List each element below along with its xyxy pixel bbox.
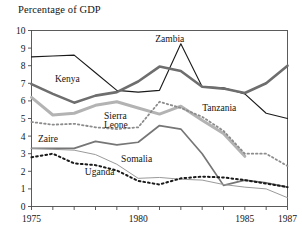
y-axis-tick-label: 4 [21, 132, 26, 142]
y-axis-tick-label: 0 [21, 202, 26, 212]
x-axis-tick-label: 1975 [22, 214, 41, 224]
line-chart-plot: 0123456789101975198019851987KenyaZambiaT… [0, 0, 302, 239]
y-axis-tick-label: 1 [21, 184, 26, 194]
x-axis-tick-label: 1980 [129, 214, 148, 224]
y-axis-tick-label: 3 [21, 149, 26, 159]
series-annotation-somalia: Somalia [121, 154, 153, 164]
series-line-uganda [32, 154, 288, 187]
y-axis-tick-label: 6 [21, 96, 26, 106]
y-axis-tick-label: 9 [21, 44, 26, 54]
series-annotation-zaire: Zaire [38, 134, 58, 144]
y-axis-tick-label: 7 [21, 79, 26, 89]
series-annotation-sierra: Sierra [104, 111, 127, 121]
x-axis-tick-label: 1985 [235, 214, 254, 224]
series-line-sierra-leone [32, 102, 288, 166]
series-annotation-uganda: Uganda [85, 167, 115, 177]
series-annotation-kenya: Kenya [55, 74, 81, 84]
series-annotation-leone: Leone [104, 120, 128, 130]
y-axis-tick-label: 10 [16, 26, 26, 36]
series-annotation-tanzania: Tanzania [202, 103, 237, 113]
series-line-somalia [32, 148, 288, 197]
chart-container: Percentage of GDP 0123456789101975198019… [0, 0, 302, 239]
y-axis-tick-label: 2 [21, 167, 26, 177]
y-axis-tick-label: 5 [21, 114, 26, 124]
series-annotation-zambia: Zambia [155, 34, 185, 44]
y-axis-tick-label: 8 [21, 61, 26, 71]
x-axis-tick-label: 1987 [278, 214, 297, 224]
